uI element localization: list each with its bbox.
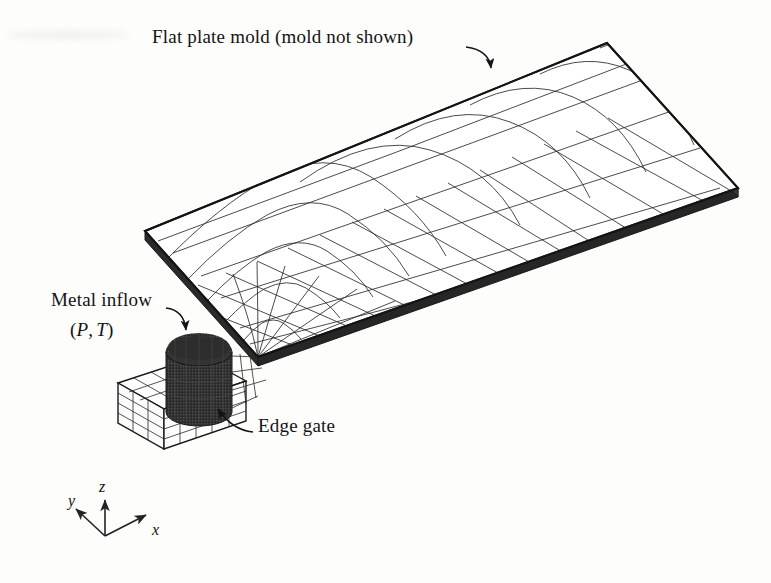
param-pressure: P (77, 319, 89, 340)
param-temperature: T (96, 319, 107, 340)
axis-y-line (76, 509, 105, 536)
coordinate-axes (76, 500, 146, 536)
axis-x-label: x (152, 521, 159, 539)
metal-inflow-label: Metal inflow (51, 289, 152, 311)
sprue-cylinder (166, 333, 232, 426)
axis-z-label: z (99, 478, 105, 496)
figure-canvas: Flat plate mold (mold not shown) Metal i… (0, 0, 771, 583)
param-comma: , (88, 319, 93, 340)
paren-close: ) (107, 319, 114, 340)
axis-y-label: y (68, 492, 75, 510)
plate-title-label: Flat plate mold (mold not shown) (152, 26, 413, 48)
edge-gate-label: Edge gate (258, 415, 335, 437)
axis-x-line (105, 515, 146, 536)
title-arrow (466, 47, 491, 68)
inflow-arrow (166, 308, 186, 330)
metal-inflow-params-label: (P,T) (70, 319, 114, 341)
